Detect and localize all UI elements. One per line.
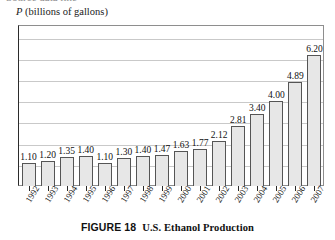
bar-slot: 2.12 (210, 25, 229, 186)
bar-slot: 4.89 (286, 25, 305, 186)
bar-1993[interactable] (41, 161, 55, 186)
bar-value-label: 1.40 (135, 145, 152, 155)
bar-1999[interactable] (155, 155, 169, 186)
bar-slot: 2.81 (229, 25, 248, 186)
bar-slot: 1.40 (76, 25, 95, 186)
bar-value-label: 4.00 (268, 90, 285, 100)
x-axis-labels: 1992199319941995199619971998199920002001… (19, 191, 324, 217)
year-slot: 2002 (210, 191, 229, 217)
bar-slot: 1.40 (133, 25, 152, 186)
bar-2000[interactable] (174, 151, 188, 186)
bar-value-label: 1.20 (39, 150, 56, 160)
bar-value-label: 6.20 (306, 44, 323, 54)
bar-2001[interactable] (193, 149, 207, 186)
bar-slot: 4.00 (267, 25, 286, 186)
year-slot: 1992 (19, 191, 38, 217)
bar-slot: 1.35 (57, 25, 76, 186)
bar-value-label: 2.12 (211, 130, 228, 140)
bar-value-label: 1.40 (77, 145, 94, 155)
bar-slot: 1.10 (95, 25, 114, 186)
bar-2006[interactable] (288, 82, 302, 186)
bar-slot: 1.77 (191, 25, 210, 186)
bar-1996[interactable] (98, 163, 112, 186)
bar-slot: 1.30 (114, 25, 133, 186)
bar-value-label: 1.77 (192, 138, 209, 148)
bar-slot: 1.20 (38, 25, 57, 186)
figure-title: U.S. Ethanol Production (142, 222, 254, 233)
bar-value-label: 1.10 (96, 152, 113, 162)
bar-value-label: 4.89 (287, 71, 304, 81)
bar-series: 1.101.201.351.401.101.301.401.471.631.77… (19, 25, 324, 186)
figure-number: FIGURE 18 (81, 221, 136, 233)
bar-1995[interactable] (79, 156, 93, 186)
bar-2005[interactable] (269, 101, 283, 186)
bar-1992[interactable] (22, 163, 36, 186)
bar-1994[interactable] (60, 157, 74, 186)
bar-value-label: 3.40 (249, 103, 266, 113)
figure-caption: FIGURE 18 U.S. Ethanol Production (0, 221, 335, 234)
cropped-text: Source data line (6, 0, 77, 3)
bar-slot: 3.40 (248, 25, 267, 186)
bar-value-label: 2.81 (230, 115, 247, 125)
bar-value-label: 1.35 (58, 146, 75, 156)
bar-2002[interactable] (212, 141, 226, 186)
year-slot: 2005 (267, 191, 286, 217)
bar-slot: 1.10 (19, 25, 38, 186)
bar-value-label: 1.10 (20, 152, 37, 162)
year-slot: 2000 (172, 191, 191, 217)
bar-2007[interactable] (307, 55, 321, 186)
bar-1998[interactable] (136, 156, 150, 186)
year-slot: 1999 (152, 191, 171, 217)
year-slot: 1994 (57, 191, 76, 217)
bar-2003[interactable] (231, 126, 245, 186)
year-slot: 2007 (305, 191, 324, 217)
year-slot: 1996 (95, 191, 114, 217)
bar-2004[interactable] (250, 114, 264, 186)
y-axis-title: P (billions of gallons) (16, 6, 108, 18)
bar-value-label: 1.47 (154, 144, 171, 154)
y-axis-units: (billions of gallons) (22, 6, 107, 17)
bar-1997[interactable] (117, 158, 131, 186)
bar-slot: 6.20 (305, 25, 324, 186)
bar-slot: 1.63 (172, 25, 191, 186)
year-slot: 2006 (286, 191, 305, 217)
bar-value-label: 1.63 (173, 140, 190, 150)
year-slot: 2001 (191, 191, 210, 217)
bar-slot: 1.47 (152, 25, 171, 186)
year-slot: 1993 (38, 191, 57, 217)
year-slot: 1995 (76, 191, 95, 217)
year-slot: 1998 (133, 191, 152, 217)
year-slot: 2003 (229, 191, 248, 217)
year-slot: 2004 (248, 191, 267, 217)
year-slot: 1997 (114, 191, 133, 217)
bar-value-label: 1.30 (116, 147, 133, 157)
